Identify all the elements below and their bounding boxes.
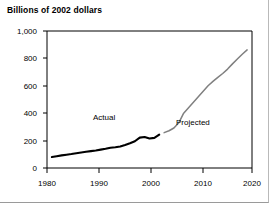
chart-figure: Billions of 2002 dollars 1,000 800: [0, 0, 269, 203]
xtick-label-2020: 2020: [232, 179, 269, 188]
ytick-label-600: 600: [3, 82, 37, 91]
xtick-label-2010: 2010: [183, 179, 223, 188]
x-axis-ticks: [47, 168, 252, 173]
xtick-label-2000: 2000: [131, 179, 171, 188]
ytick-label-400: 400: [3, 109, 37, 118]
xtick-label-1980: 1980: [27, 179, 67, 188]
annotation-projected: Projected: [176, 118, 210, 127]
annotation-actual: Actual: [93, 113, 115, 122]
xtick-label-1990: 1990: [79, 179, 119, 188]
y-axis-ticks: [43, 31, 47, 168]
line-chart-plot: [0, 0, 269, 203]
ytick-label-0: 0: [3, 164, 37, 173]
series-line-actual: [52, 135, 159, 157]
ytick-label-1000: 1,000: [3, 27, 37, 36]
ytick-label-800: 800: [3, 54, 37, 63]
ytick-label-200: 200: [3, 137, 37, 146]
